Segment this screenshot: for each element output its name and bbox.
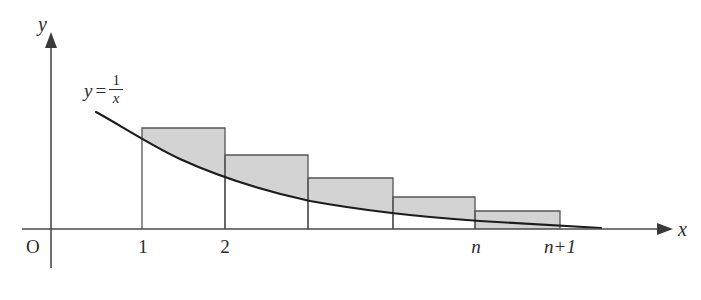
origin-label: O: [26, 237, 40, 256]
y-axis-label: y: [38, 14, 47, 34]
shaded-region-2: [225, 155, 308, 229]
x-tick-label-2: 2: [218, 237, 232, 256]
x-axis-arrowhead: [657, 223, 673, 235]
x-tick-label-1: 1: [136, 237, 150, 256]
x-tick-label-n: n: [468, 237, 484, 256]
equation-fraction: 1 x: [109, 73, 123, 106]
axes: [22, 32, 673, 268]
equation-equals-sign: =: [95, 80, 106, 102]
x-tick-label-n-plus-1: n+1: [534, 237, 586, 256]
x-axis-label: x: [678, 219, 687, 239]
figure-svg: [0, 0, 701, 300]
shaded-region-1: [142, 128, 225, 229]
equation-label-y-equals-one-over-x: y = 1 x: [84, 74, 123, 107]
shaded-region-4: [393, 197, 475, 229]
equation-lhs: y: [84, 80, 92, 102]
fraction-denominator: x: [110, 90, 123, 106]
fraction-numerator: 1: [109, 73, 123, 89]
figure-container: y = 1 x y x O 1 2 n n+1: [0, 0, 701, 300]
shaded-region-n: [475, 211, 560, 229]
